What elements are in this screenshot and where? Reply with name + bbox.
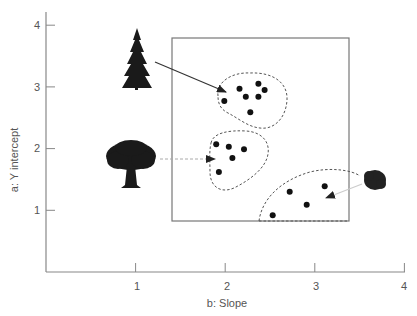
y-tick-label-4: 4 [34,19,40,31]
x-tick-label-2: 2 [224,280,230,292]
data-point [304,202,310,208]
data-point [255,81,261,87]
data-points [213,81,328,218]
y-tick-label-3: 3 [34,81,40,93]
data-point [226,144,232,150]
data-point [237,86,243,92]
data-point [229,155,235,161]
data-point [221,98,227,104]
data-point [262,87,268,93]
x-axis-label: b: Slope [207,297,247,309]
cluster-outline-oak [210,131,269,190]
slope-intercept-diagram: a: Y intercept b: Slope 1 2 3 4 1 2 3 4 [0,0,417,316]
y-tick-label-1: 1 [34,204,40,216]
data-point [241,146,247,152]
conifer-tree-icon [122,28,152,90]
cluster-outline-conifer [218,73,287,128]
axes [46,12,405,272]
axis-ticks [46,25,404,272]
shrub-icon [364,170,386,190]
region-rectangle [172,38,349,221]
x-tick-label-4: 4 [401,280,407,292]
x-tick-label-3: 3 [313,280,319,292]
y-tick-label-2: 2 [34,142,40,154]
data-point [247,109,253,115]
data-point [255,94,261,100]
y-axis-label: a: Y intercept [8,128,20,192]
data-point [213,141,219,147]
data-point [287,189,293,195]
x-tick-label-1: 1 [134,280,140,292]
plot-canvas [0,0,417,316]
data-point [270,212,276,218]
oak-tree-icon [106,140,156,188]
arrow-shrub [326,184,362,198]
data-point [216,169,222,175]
data-point [322,183,328,189]
data-point [243,94,249,100]
arrow-conifer [155,62,226,92]
